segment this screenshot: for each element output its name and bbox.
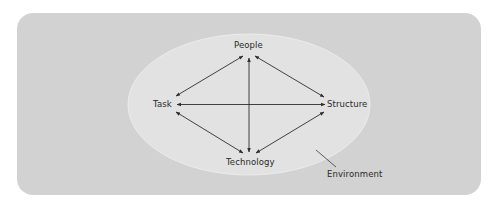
node-task: Task bbox=[153, 99, 172, 109]
node-people: People bbox=[234, 40, 263, 50]
node-technology: Technology bbox=[226, 157, 275, 167]
system-diagram bbox=[0, 0, 493, 204]
environment-label: Environment bbox=[327, 169, 382, 179]
node-structure: Structure bbox=[327, 99, 367, 109]
